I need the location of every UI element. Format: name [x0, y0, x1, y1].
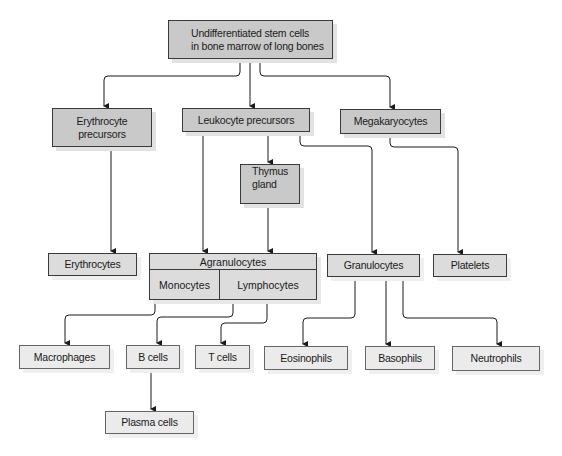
- node-neutrophils: Neutrophils: [452, 346, 540, 371]
- node-stem-cells: Undifferentiated stem cells in bone marr…: [168, 20, 333, 59]
- node-eosinophils-label: Eosinophils: [280, 352, 332, 365]
- node-granulocytes-label: Granulocytes: [344, 259, 403, 272]
- node-megakaryocytes: Megakaryocytes: [340, 109, 441, 134]
- node-eosinophils: Eosinophils: [264, 346, 348, 370]
- node-thymus-line1: Thymus: [252, 165, 288, 178]
- node-platelets: Platelets: [433, 254, 507, 277]
- node-t-cells: T cells: [195, 345, 250, 369]
- node-granulocytes: Granulocytes: [327, 254, 420, 277]
- node-lymphocytes: Lymphocytes: [220, 270, 316, 299]
- blood-cell-lineage-diagram: Undifferentiated stem cells in bone marr…: [0, 0, 562, 456]
- node-monocytes: Monocytes: [150, 270, 220, 299]
- connector-lines: [0, 0, 562, 456]
- node-erythrocyte-precursors-line2: precursors: [78, 128, 126, 141]
- node-leukocyte-precursors: Leukocyte precursors: [182, 108, 310, 132]
- node-neutrophils-label: Neutrophils: [471, 352, 522, 365]
- node-plasma-cells-label: Plasma cells: [121, 416, 178, 429]
- node-thymus-line2: gland: [252, 178, 277, 191]
- node-b-cells-label: B cells: [138, 351, 168, 364]
- node-agranulocytes-group: Agranulocytes Monocytes Lymphocytes: [149, 253, 317, 300]
- node-stem-cells-line1: Undifferentiated stem cells: [191, 27, 309, 40]
- node-basophils: Basophils: [365, 346, 435, 370]
- node-stem-cells-line2: in bone marrow of long bones: [191, 40, 324, 53]
- node-agranulocytes: Agranulocytes: [150, 254, 316, 270]
- node-plasma-cells: Plasma cells: [105, 411, 194, 434]
- node-platelets-label: Platelets: [451, 259, 489, 272]
- node-erythrocytes: Erythrocytes: [48, 253, 137, 276]
- node-b-cells: B cells: [126, 345, 180, 369]
- node-leukocyte-precursors-label: Leukocyte precursors: [198, 114, 294, 127]
- node-megakaryocytes-label: Megakaryocytes: [354, 115, 428, 128]
- node-erythrocyte-precursors: Erythrocyte precursors: [52, 108, 152, 147]
- node-erythrocyte-precursors-line1: Erythrocyte: [77, 115, 128, 128]
- node-erythrocytes-label: Erythrocytes: [65, 258, 121, 271]
- node-t-cells-label: T cells: [208, 351, 237, 364]
- node-thymus-gland: Thymus gland: [240, 164, 300, 204]
- node-basophils-label: Basophils: [378, 352, 422, 365]
- node-macrophages-label: Macrophages: [34, 351, 95, 364]
- node-macrophages: Macrophages: [19, 345, 110, 369]
